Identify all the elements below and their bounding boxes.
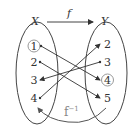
domain-element: 4 bbox=[31, 92, 38, 105]
inverse-label: f−1 bbox=[64, 105, 79, 119]
domain-element: 1 bbox=[31, 40, 38, 53]
codomain-element: 4 bbox=[104, 74, 111, 87]
domain-label: X bbox=[30, 15, 40, 28]
mapping-arrow-4-2 bbox=[40, 44, 100, 98]
codomain-element: 2 bbox=[104, 38, 111, 51]
domain-element: 3 bbox=[31, 74, 38, 87]
mapping-diagram: X Y f 1 2 3 4 2 3 4 5 f−1 bbox=[0, 0, 137, 129]
domain-set-ellipse bbox=[16, 22, 58, 124]
function-label: f bbox=[66, 7, 73, 20]
codomain-element: 5 bbox=[104, 92, 111, 105]
codomain-label: Y bbox=[101, 15, 110, 28]
mapping-arrow-2-5 bbox=[40, 62, 100, 98]
codomain-element: 3 bbox=[104, 56, 111, 69]
mapping-arrow-1-4 bbox=[41, 46, 100, 80]
domain-element: 2 bbox=[31, 56, 38, 69]
